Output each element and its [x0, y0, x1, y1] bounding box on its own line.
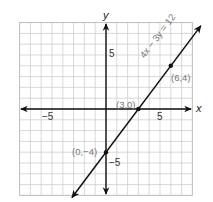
x-tick-neg5: −5 — [42, 112, 53, 122]
point-marker — [104, 150, 108, 154]
point-label-0-neg4: (0,−4) — [72, 147, 97, 157]
point-label-6-4: (6,4) — [171, 73, 191, 83]
y-axis-label: y — [103, 10, 109, 21]
x-axis-label: x — [196, 103, 202, 114]
point-marker — [136, 107, 140, 111]
coordinate-plane — [0, 0, 213, 202]
y-tick-pos5: 5 — [109, 49, 115, 59]
y-tick-neg5: −5 — [109, 158, 120, 168]
point-marker — [169, 64, 173, 68]
x-tick-pos5: 5 — [157, 112, 163, 122]
point-label-3-0: (3,0) — [116, 100, 136, 110]
